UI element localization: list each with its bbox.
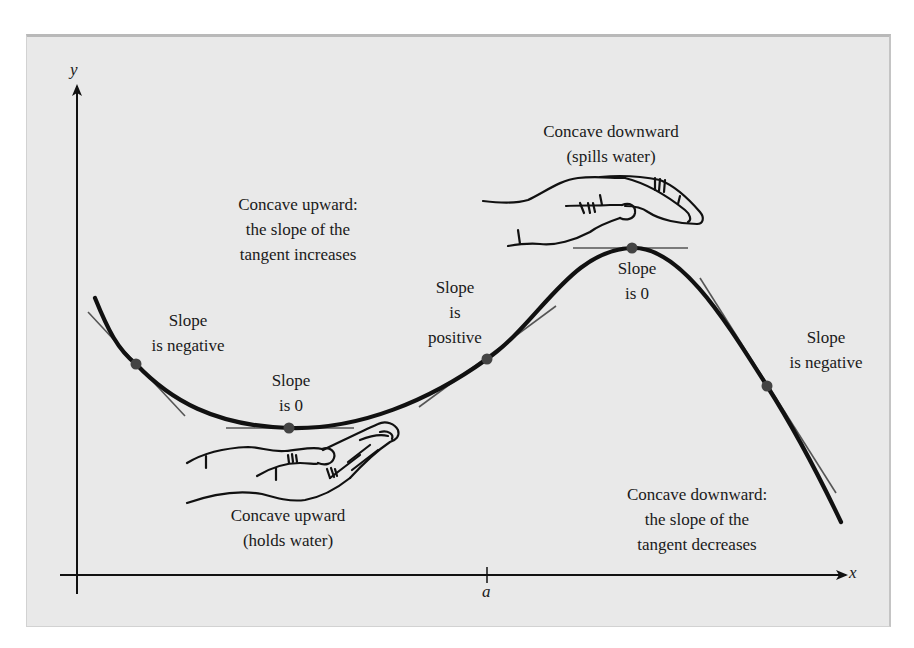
label-line: is	[428, 300, 482, 325]
label-slope-negative-left: Slope is negative	[151, 308, 224, 358]
label-line: Concave upward:	[238, 192, 357, 217]
label-concave-up-hand: Concave upward (holds water)	[231, 503, 346, 553]
label-line: Concave downward	[543, 119, 679, 144]
label-slope-negative-right: Slope is negative	[789, 325, 862, 375]
label-line: Concave upward	[231, 503, 346, 528]
point-right-negative	[762, 381, 773, 392]
label-line: the slope of the	[627, 507, 767, 532]
point-left-negative	[131, 359, 142, 370]
label-concave-down-note: Concave downward: the slope of the tange…	[627, 482, 767, 557]
label-line: (holds water)	[231, 528, 346, 553]
label-line: (spills water)	[543, 144, 679, 169]
label-line: Slope	[618, 256, 657, 281]
cupped-hand-icon	[187, 422, 399, 503]
label-line: is negative	[151, 333, 224, 358]
label-slope-positive: Slope is positive	[428, 275, 482, 350]
label-line: is negative	[789, 350, 862, 375]
label-slope-zero-min: Slope is 0	[272, 368, 311, 418]
label-line: is 0	[618, 281, 657, 306]
point-minimum	[284, 423, 295, 434]
label-line: tangent increases	[238, 242, 357, 267]
label-line: Concave downward:	[627, 482, 767, 507]
label-line: positive	[428, 325, 482, 350]
label-line: the slope of the	[238, 217, 357, 242]
label-line: Slope	[428, 275, 482, 300]
y-axis-label: y	[70, 60, 78, 80]
tick-a-label: a	[482, 582, 491, 602]
label-concave-up-note: Concave upward: the slope of the tangent…	[238, 192, 357, 267]
label-line: Slope	[272, 368, 311, 393]
point-inflection	[482, 354, 493, 365]
x-axis-label: x	[849, 563, 857, 583]
point-maximum	[627, 243, 638, 254]
label-line: is 0	[272, 393, 311, 418]
inverted-hand-icon	[483, 176, 703, 246]
label-line: Slope	[789, 325, 862, 350]
label-line: tangent decreases	[627, 532, 767, 557]
label-line: Slope	[151, 308, 224, 333]
label-slope-zero-max: Slope is 0	[618, 256, 657, 306]
label-concave-down-hand: Concave downward (spills water)	[543, 119, 679, 169]
